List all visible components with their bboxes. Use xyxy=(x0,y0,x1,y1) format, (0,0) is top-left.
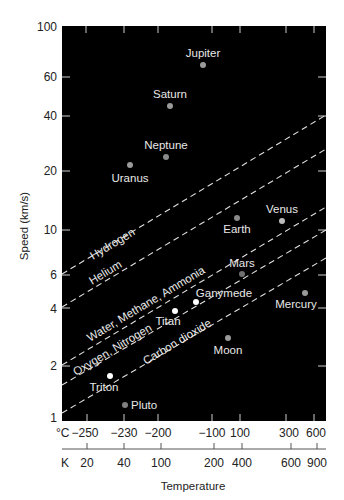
venus-label: Venus xyxy=(266,203,298,215)
escape-velocity-chart: Hydrogen Helium Water, Methane, Ammonia … xyxy=(0,0,344,500)
mercury-point xyxy=(302,290,308,296)
svg-text:−230: −230 xyxy=(110,426,137,440)
celsius-tick-labels: −250 −230 −200 −100 100 300 600 xyxy=(71,426,326,440)
venus-point xyxy=(279,218,285,224)
svg-text:100: 100 xyxy=(37,20,57,34)
triton-point xyxy=(107,373,113,379)
ganymede-label: Ganymede xyxy=(196,287,252,299)
jupiter-label: Jupiter xyxy=(186,47,221,59)
svg-text:100: 100 xyxy=(230,426,250,440)
svg-text:300: 300 xyxy=(279,426,299,440)
svg-text:10: 10 xyxy=(44,223,58,237)
mars-label: Mars xyxy=(229,257,255,269)
saturn-point xyxy=(167,103,173,109)
svg-text:400: 400 xyxy=(232,456,252,470)
svg-text:−250: −250 xyxy=(71,426,98,440)
mercury-label: Mercury xyxy=(275,298,317,310)
kelvin-unit: K xyxy=(61,456,69,470)
jupiter-point xyxy=(200,62,206,68)
svg-text:600: 600 xyxy=(306,426,326,440)
celsius-unit: °C xyxy=(56,426,70,440)
svg-text:20: 20 xyxy=(80,456,94,470)
triton-label: Triton xyxy=(90,381,119,393)
pluto-point xyxy=(122,402,128,408)
svg-text:−200: −200 xyxy=(144,426,171,440)
earth-label: Earth xyxy=(223,223,251,235)
x-axis-title: Temperature xyxy=(161,480,226,492)
temperature-axis-ticks xyxy=(87,443,317,449)
moon-point xyxy=(225,335,231,341)
svg-text:40: 40 xyxy=(117,456,131,470)
moon-label: Moon xyxy=(214,344,243,356)
earth-point xyxy=(234,215,240,221)
kelvin-tick-labels: 20 40 100 200 400 600 900 xyxy=(80,456,327,470)
svg-text:1: 1 xyxy=(50,411,57,425)
svg-text:900: 900 xyxy=(307,456,327,470)
svg-text:4: 4 xyxy=(50,302,57,316)
neptune-point xyxy=(163,154,169,160)
svg-text:200: 200 xyxy=(204,456,224,470)
pluto-label: Pluto xyxy=(131,399,157,411)
svg-text:100: 100 xyxy=(151,456,171,470)
svg-text:600: 600 xyxy=(281,456,301,470)
svg-text:40: 40 xyxy=(44,109,58,123)
svg-text:20: 20 xyxy=(44,164,58,178)
ganymede-point xyxy=(193,299,199,305)
titan-label: Titan xyxy=(155,315,180,327)
uranus-point xyxy=(127,162,133,168)
svg-text:2: 2 xyxy=(50,359,57,373)
uranus-label: Uranus xyxy=(111,172,148,184)
titan-point xyxy=(172,308,178,314)
y-tick-labels: 100 60 40 20 10 6 4 2 1 xyxy=(37,20,57,425)
svg-text:−100: −100 xyxy=(198,426,225,440)
mars-point xyxy=(239,271,245,277)
y-axis-title: Speed (km/s) xyxy=(18,192,30,261)
svg-text:60: 60 xyxy=(44,70,58,84)
svg-text:6: 6 xyxy=(50,268,57,282)
saturn-label: Saturn xyxy=(153,88,187,100)
neptune-label: Neptune xyxy=(144,139,187,151)
